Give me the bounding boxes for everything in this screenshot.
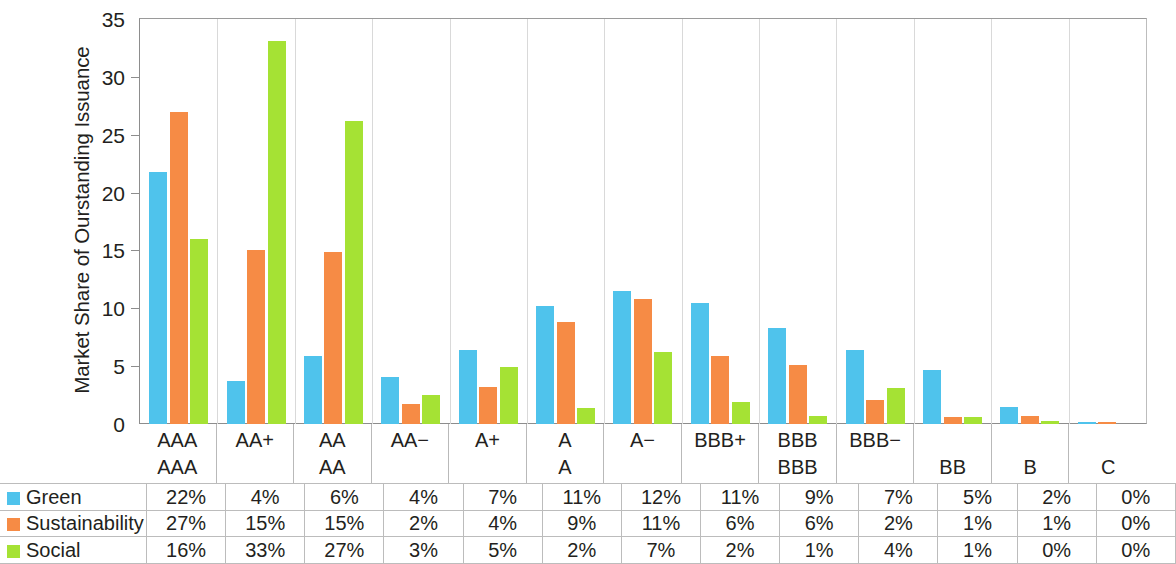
table-cell: 4% xyxy=(226,484,305,511)
table-cell: 11% xyxy=(700,484,779,511)
table-cell: 2% xyxy=(542,537,621,564)
table-cell: 0% xyxy=(1017,537,1096,564)
bar-group xyxy=(991,19,1068,424)
bar[interactable] xyxy=(536,306,554,424)
bar[interactable] xyxy=(190,239,208,424)
table-cell: 2% xyxy=(1017,484,1096,511)
legend-swatch-icon xyxy=(7,492,20,505)
table-cell: 12% xyxy=(621,484,700,511)
bar[interactable] xyxy=(654,352,672,424)
y-axis-tick-label: 15 xyxy=(5,240,125,261)
bar[interactable] xyxy=(149,172,167,424)
bar[interactable] xyxy=(479,387,497,424)
x-axis-category-cell: C xyxy=(1069,424,1147,483)
bar-group xyxy=(217,19,294,424)
bar[interactable] xyxy=(613,291,631,424)
table-cell: 5% xyxy=(938,484,1017,511)
x-axis-category-cell: AAAA xyxy=(294,424,372,483)
table-cell: 0% xyxy=(1096,537,1175,564)
legend-item-sustainability[interactable]: Sustainability xyxy=(0,510,147,537)
bar[interactable] xyxy=(500,367,518,424)
bar[interactable] xyxy=(923,370,941,424)
table-cell: 6% xyxy=(780,510,859,537)
bar[interactable] xyxy=(422,395,440,424)
bar-group xyxy=(604,19,681,424)
y-axis-tick-mark xyxy=(131,366,139,367)
table-cell: 7% xyxy=(463,484,542,511)
table-cell: 5% xyxy=(463,537,542,564)
table-cell: 4% xyxy=(463,510,542,537)
bar[interactable] xyxy=(324,252,342,424)
y-axis-tick-label: 20 xyxy=(5,182,125,203)
bar[interactable] xyxy=(345,121,363,424)
table-cell: 15% xyxy=(305,510,384,537)
legend-label: Social xyxy=(26,540,80,560)
legend-item-green[interactable]: Green xyxy=(0,484,147,511)
table-cell: 9% xyxy=(780,484,859,511)
table-cell: 4% xyxy=(859,537,938,564)
x-axis-label-line2: A xyxy=(527,457,604,477)
bar[interactable] xyxy=(1021,416,1039,424)
bar-group xyxy=(450,19,527,424)
bars-layer xyxy=(140,19,1146,424)
y-axis-tick-label: 25 xyxy=(5,124,125,145)
x-axis-label-line1: BBB xyxy=(759,430,836,450)
bar-group xyxy=(372,19,449,424)
bar[interactable] xyxy=(691,303,709,425)
bar[interactable] xyxy=(964,417,982,424)
y-axis-tick-mark xyxy=(131,308,139,309)
bar[interactable] xyxy=(846,350,864,424)
x-axis-label-line1: AAA xyxy=(139,430,216,450)
bar[interactable] xyxy=(866,400,884,424)
bar-group xyxy=(682,19,759,424)
bar-group xyxy=(527,19,604,424)
bar[interactable] xyxy=(1000,407,1018,424)
table-cell: 6% xyxy=(700,510,779,537)
bar[interactable] xyxy=(634,299,652,424)
bar-group xyxy=(1069,19,1146,424)
legend-label: Sustainability xyxy=(26,513,144,533)
bar[interactable] xyxy=(304,356,322,424)
x-axis-label-line2: AAA xyxy=(139,457,216,477)
y-axis-tick-mark xyxy=(131,250,139,251)
table-cell: 15% xyxy=(226,510,305,537)
bar[interactable] xyxy=(268,41,286,424)
x-axis-category-cell: BBB− xyxy=(837,424,915,483)
y-axis-tick-mark xyxy=(131,193,139,194)
bar[interactable] xyxy=(227,381,245,424)
bar-group xyxy=(836,19,913,424)
x-axis-category-cell: AA− xyxy=(372,424,450,483)
bar[interactable] xyxy=(577,408,595,424)
x-axis-category-band: AAAAAAAA+AAAAAA−A+AAA−BBB+BBBBBBBBB−BBBC xyxy=(139,424,1147,483)
x-axis-label-line2: C xyxy=(1069,457,1147,477)
x-axis-category-cell: BBBBBB xyxy=(759,424,837,483)
bar[interactable] xyxy=(402,404,420,424)
table-row: Green22%4%6%4%7%11%12%11%9%7%5%2%0% xyxy=(0,484,1175,511)
x-axis-label-line1: A− xyxy=(604,430,681,450)
legend-label: Green xyxy=(26,487,82,507)
bar[interactable] xyxy=(768,328,786,424)
table-cell: 7% xyxy=(859,484,938,511)
legend-item-social[interactable]: Social xyxy=(0,537,147,564)
x-axis-category-cell: BBB+ xyxy=(682,424,760,483)
bar[interactable] xyxy=(557,322,575,424)
table-cell: 2% xyxy=(700,537,779,564)
y-axis-tick-label: 35 xyxy=(5,9,125,30)
x-axis-category-cell: BB xyxy=(914,424,992,483)
bar[interactable] xyxy=(381,377,399,424)
x-axis-label-line1: AA− xyxy=(372,430,449,450)
bar[interactable] xyxy=(944,417,962,424)
table-row: Sustainability27%15%15%2%4%9%11%6%6%2%1%… xyxy=(0,510,1175,537)
bar[interactable] xyxy=(809,416,827,424)
bar[interactable] xyxy=(789,365,807,424)
table-cell: 0% xyxy=(1096,484,1175,511)
bar[interactable] xyxy=(247,250,265,424)
x-axis-label-line2: AA xyxy=(294,457,371,477)
bar[interactable] xyxy=(459,350,477,424)
legend-swatch-icon xyxy=(7,545,20,558)
bar[interactable] xyxy=(732,402,750,424)
table-cell: 2% xyxy=(859,510,938,537)
bar[interactable] xyxy=(887,388,905,424)
bar[interactable] xyxy=(170,112,188,424)
bar[interactable] xyxy=(711,356,729,424)
